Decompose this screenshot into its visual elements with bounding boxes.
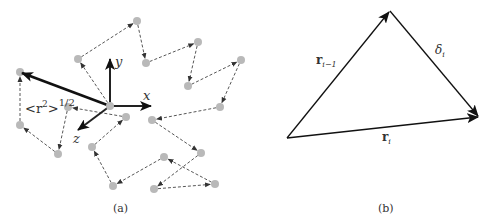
walk-step (117, 159, 160, 184)
walk-point (184, 82, 192, 90)
walk-point (211, 180, 219, 188)
walk-point (74, 55, 82, 63)
x-axis-label: x (143, 88, 151, 103)
walk-step (59, 111, 67, 149)
z-axis-label: z (72, 131, 80, 146)
walk-step (94, 151, 111, 182)
walk-point (194, 38, 202, 46)
walk-step (189, 46, 197, 81)
label-r-i: ri (382, 130, 391, 146)
label-delta-i: δi (435, 43, 445, 59)
vector-delta-i (390, 11, 478, 116)
walk-point (109, 182, 117, 190)
walk-point (142, 59, 150, 67)
walk-point (133, 17, 141, 25)
walk-point (148, 116, 156, 124)
caption-b: (b) (378, 202, 394, 215)
walk-point (122, 113, 130, 121)
walk-point (160, 153, 168, 161)
walk-step (150, 44, 194, 62)
walk-step (81, 24, 132, 57)
origin-point (106, 102, 114, 110)
walk-step (157, 108, 216, 119)
panel-b: ri−1 δi ri (b) (287, 11, 478, 215)
panel-a: y x z <r2>1/2 (a) (16, 17, 245, 215)
z-axis-arrow (78, 106, 110, 130)
walk-point (216, 103, 224, 111)
vector-r-i-minus-1 (287, 12, 389, 138)
walk-step (192, 62, 237, 84)
diagram-canvas: y x z <r2>1/2 (a) ri−1 δi ri (b) (0, 0, 493, 224)
walk-point (150, 185, 158, 193)
caption-a: (a) (113, 202, 128, 215)
walk-step (222, 64, 239, 103)
walk-step (138, 25, 145, 58)
walk-point (197, 149, 205, 157)
walk-point (54, 150, 62, 158)
walk-point (88, 143, 96, 151)
rms-distance-label: <r2>1/2 (25, 97, 75, 116)
y-axis-label: y (114, 54, 123, 69)
walk-step (24, 128, 55, 152)
walk-step (168, 159, 211, 182)
label-r-i-minus-1: ri−1 (316, 53, 337, 69)
walk-step (95, 120, 122, 144)
walk-step (158, 184, 210, 188)
walk-point (16, 121, 24, 129)
walk-step (155, 122, 197, 150)
walk-point (237, 56, 245, 64)
